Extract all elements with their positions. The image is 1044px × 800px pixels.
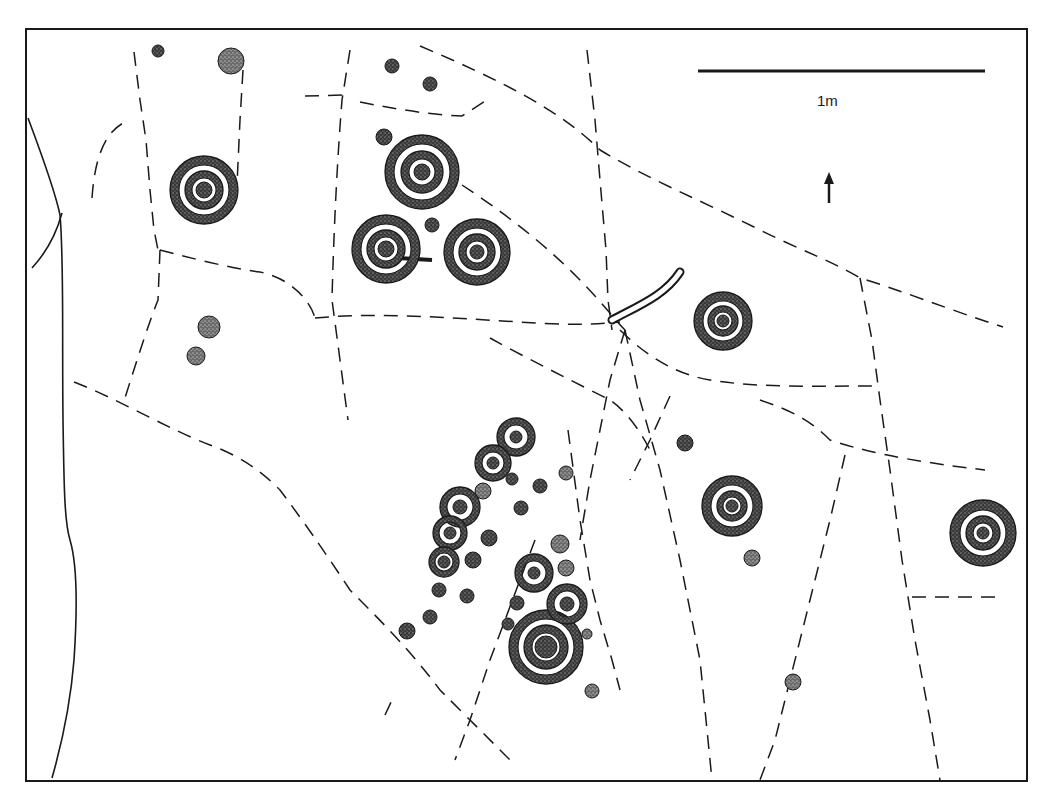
cup-and-ring-mark bbox=[702, 476, 762, 536]
cup-mark bbox=[585, 684, 599, 698]
cup-mark bbox=[506, 473, 518, 485]
crack-line bbox=[134, 52, 158, 250]
cup-and-ring-mark bbox=[515, 554, 553, 592]
crack-line bbox=[580, 330, 625, 540]
cup-and-ring-mark bbox=[694, 292, 752, 350]
cup-and-ring-mark bbox=[547, 584, 587, 624]
cup-mark bbox=[187, 347, 205, 365]
cup bbox=[977, 527, 989, 539]
cup bbox=[528, 567, 540, 579]
cup-mark bbox=[481, 530, 497, 546]
crack-line bbox=[760, 400, 985, 470]
cup-and-ring-mark bbox=[429, 547, 459, 577]
cup-mark bbox=[423, 610, 437, 624]
cup bbox=[453, 500, 467, 514]
crack-line bbox=[305, 95, 345, 96]
crack-line bbox=[455, 540, 535, 760]
groove bbox=[398, 258, 680, 320]
cups bbox=[152, 45, 801, 698]
cup bbox=[510, 431, 522, 443]
cup-mark bbox=[533, 479, 547, 493]
crack-line bbox=[620, 330, 880, 386]
cup bbox=[196, 182, 212, 198]
cup bbox=[470, 245, 484, 259]
crack-line bbox=[237, 70, 243, 185]
cup-mark bbox=[744, 550, 760, 566]
cup-and-ring-mark bbox=[433, 516, 467, 550]
cup bbox=[414, 164, 430, 180]
cup-mark bbox=[514, 501, 528, 515]
cup-mark bbox=[432, 583, 446, 597]
panel-edges bbox=[28, 118, 76, 778]
cup-mark bbox=[460, 589, 474, 603]
scale-bar-label: 1m bbox=[817, 92, 838, 109]
cup bbox=[726, 500, 738, 512]
cup bbox=[438, 556, 450, 568]
cup-mark bbox=[218, 48, 244, 74]
cup-mark bbox=[510, 596, 524, 610]
cup-mark bbox=[677, 435, 693, 451]
cup-mark bbox=[465, 552, 481, 568]
cup-mark bbox=[582, 629, 592, 639]
cracks bbox=[74, 46, 1003, 780]
cup-and-ring-mark bbox=[475, 445, 511, 481]
cup-mark bbox=[399, 623, 415, 639]
cup-and-ring-mark bbox=[352, 215, 420, 283]
crack-line bbox=[360, 98, 490, 116]
cup-mark bbox=[559, 466, 573, 480]
cup-mark bbox=[152, 45, 164, 57]
cup-and-ring-mark bbox=[950, 500, 1016, 566]
crack-line bbox=[630, 396, 670, 480]
cup-and-ring-mark bbox=[170, 156, 238, 224]
cup-mark bbox=[475, 483, 491, 499]
crack-line bbox=[160, 250, 315, 318]
crack-line bbox=[332, 50, 350, 420]
cup-mark bbox=[551, 535, 569, 553]
crack-line bbox=[587, 50, 612, 330]
crack-line bbox=[125, 250, 160, 398]
cup-mark bbox=[558, 560, 574, 576]
cup-mark bbox=[785, 674, 801, 690]
cup bbox=[535, 636, 557, 658]
cup bbox=[487, 457, 499, 469]
north-arrow-icon bbox=[824, 172, 834, 203]
cup-mark bbox=[425, 218, 439, 232]
crack-line bbox=[860, 278, 940, 780]
cup-mark bbox=[198, 316, 220, 338]
cup-and-ring-mark bbox=[385, 135, 459, 209]
cup-mark bbox=[502, 618, 514, 630]
cup-mark bbox=[423, 77, 437, 91]
cup-mark bbox=[376, 129, 392, 145]
crack-line bbox=[760, 455, 845, 780]
cup bbox=[717, 315, 729, 327]
cup bbox=[560, 597, 574, 611]
crack-line bbox=[385, 700, 392, 715]
cup-and-ring-marks bbox=[170, 135, 1016, 684]
cup bbox=[444, 527, 456, 539]
panel-edge-line bbox=[32, 213, 62, 268]
crack-line bbox=[315, 315, 620, 324]
panel-edge-line bbox=[28, 118, 76, 778]
cup-and-ring-mark bbox=[444, 219, 510, 285]
cup bbox=[378, 241, 394, 257]
survey-drawing bbox=[0, 0, 1044, 800]
cup-mark bbox=[385, 59, 399, 73]
crack-line bbox=[92, 120, 130, 198]
crack-line bbox=[420, 46, 1003, 327]
